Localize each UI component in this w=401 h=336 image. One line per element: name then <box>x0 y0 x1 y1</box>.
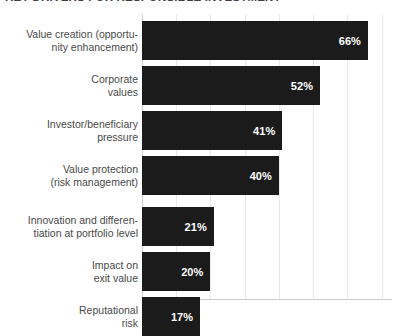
bar-row[interactable]: 40% <box>142 156 392 195</box>
bar-row[interactable]: 20% <box>142 252 392 291</box>
bar[interactable]: 41% <box>142 111 282 150</box>
bar-value-label: 17% <box>171 311 200 323</box>
bar[interactable]: 52% <box>142 66 320 105</box>
category-label: Corporate values <box>0 73 138 98</box>
bar-value-label: 66% <box>339 35 368 47</box>
category-label: Value protection (risk management) <box>0 163 138 188</box>
bar[interactable]: 66% <box>142 21 368 60</box>
bar-row[interactable]: 66% <box>142 21 392 60</box>
category-label: Impact on exit value <box>0 259 138 284</box>
bar-value-label: 41% <box>253 125 282 137</box>
category-label: Investor/beneficiary pressure <box>0 118 138 143</box>
bar[interactable]: 21% <box>142 207 214 246</box>
category-label: Innovation and differen- tiation at port… <box>0 214 138 239</box>
bar-value-label: 52% <box>291 80 320 92</box>
bar[interactable]: 17% <box>142 297 200 336</box>
bar-row[interactable]: 52% <box>142 66 392 105</box>
bar-series: 66%52%41%40%21%20%17% <box>142 14 392 300</box>
bar-value-label: 40% <box>250 170 279 182</box>
category-label: Reputational risk <box>0 304 138 329</box>
bar[interactable]: 20% <box>142 252 210 291</box>
bar-row[interactable]: 41% <box>142 111 392 150</box>
plot-area: 66%52%41%40%21%20%17% <box>142 14 392 300</box>
bar-row[interactable]: 17% <box>142 297 392 336</box>
bar[interactable]: 40% <box>142 156 279 195</box>
bar-value-label: 20% <box>181 266 210 278</box>
chart-title: KEY DRIVERS FOR RESPONSIBLE INVESTMENT <box>5 0 281 4</box>
bar-value-label: 21% <box>185 221 214 233</box>
category-label: Value creation (opportu- nity enhancemen… <box>0 28 138 53</box>
category-label-list: Value creation (opportu- nity enhancemen… <box>0 14 138 300</box>
bar-row[interactable]: 21% <box>142 207 392 246</box>
